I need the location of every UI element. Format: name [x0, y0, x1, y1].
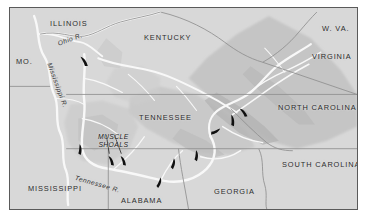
map-figure: ILLINOISKENTUCKYW. VA.MO.VIRGINIANORTH C…: [0, 0, 367, 219]
map-canvas: [10, 8, 357, 209]
map-frame: ILLINOISKENTUCKYW. VA.MO.VIRGINIANORTH C…: [9, 7, 358, 210]
